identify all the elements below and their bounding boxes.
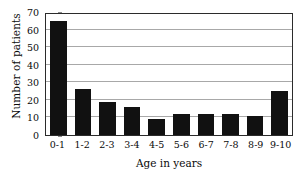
y-axis-tick-label: 40 bbox=[17, 61, 39, 71]
x-axis-title: Age in years bbox=[45, 157, 293, 169]
y-axis-tick-label: 60 bbox=[17, 26, 39, 36]
y-axis-tick-label: 70 bbox=[17, 8, 39, 18]
bars-layer bbox=[46, 14, 292, 135]
y-axis-tick-label: 20 bbox=[17, 96, 39, 106]
x-axis-tick-label: 6-7 bbox=[194, 139, 219, 150]
bar bbox=[247, 116, 264, 135]
bar-slot bbox=[169, 14, 194, 135]
x-axis-tick-label: 1-2 bbox=[70, 139, 95, 150]
bar-slot bbox=[243, 14, 268, 135]
bar-chart: Number of patients 010203040506070 0-11-… bbox=[0, 0, 302, 181]
bar-slot bbox=[120, 14, 145, 135]
x-axis-tick-labels: 0-11-22-33-44-55-66-77-88-99-10 bbox=[45, 139, 293, 150]
bar bbox=[271, 91, 288, 135]
plot-area bbox=[45, 13, 293, 136]
bar-slot bbox=[46, 14, 71, 135]
bar bbox=[75, 89, 92, 135]
y-axis-tick-labels: 010203040506070 bbox=[17, 7, 39, 137]
y-axis-tick-label: 30 bbox=[17, 79, 39, 89]
x-axis-tick-label: 5-6 bbox=[169, 139, 194, 150]
x-axis-tick-label: 2-3 bbox=[95, 139, 120, 150]
bar-slot bbox=[144, 14, 169, 135]
x-axis-tick-label: 9-10 bbox=[268, 139, 293, 150]
y-axis-tick-label: 0 bbox=[17, 131, 39, 141]
x-axis-tick-label: 0-1 bbox=[45, 139, 70, 150]
bar bbox=[198, 114, 215, 135]
bar bbox=[99, 102, 116, 135]
x-axis-tick-label: 7-8 bbox=[219, 139, 244, 150]
bar bbox=[222, 114, 239, 135]
bar bbox=[50, 21, 67, 135]
bar bbox=[124, 107, 141, 135]
x-axis-tick-label: 3-4 bbox=[119, 139, 144, 150]
bar bbox=[148, 119, 165, 135]
bar-slot bbox=[71, 14, 96, 135]
bar bbox=[173, 114, 190, 135]
y-axis-tick-label: 50 bbox=[17, 43, 39, 53]
bar-slot bbox=[267, 14, 292, 135]
bar-slot bbox=[194, 14, 219, 135]
x-axis-tick-label: 4-5 bbox=[144, 139, 169, 150]
bar-slot bbox=[218, 14, 243, 135]
bar-slot bbox=[95, 14, 120, 135]
x-axis-tick-label: 8-9 bbox=[243, 139, 268, 150]
y-axis-tick-label: 10 bbox=[17, 114, 39, 124]
